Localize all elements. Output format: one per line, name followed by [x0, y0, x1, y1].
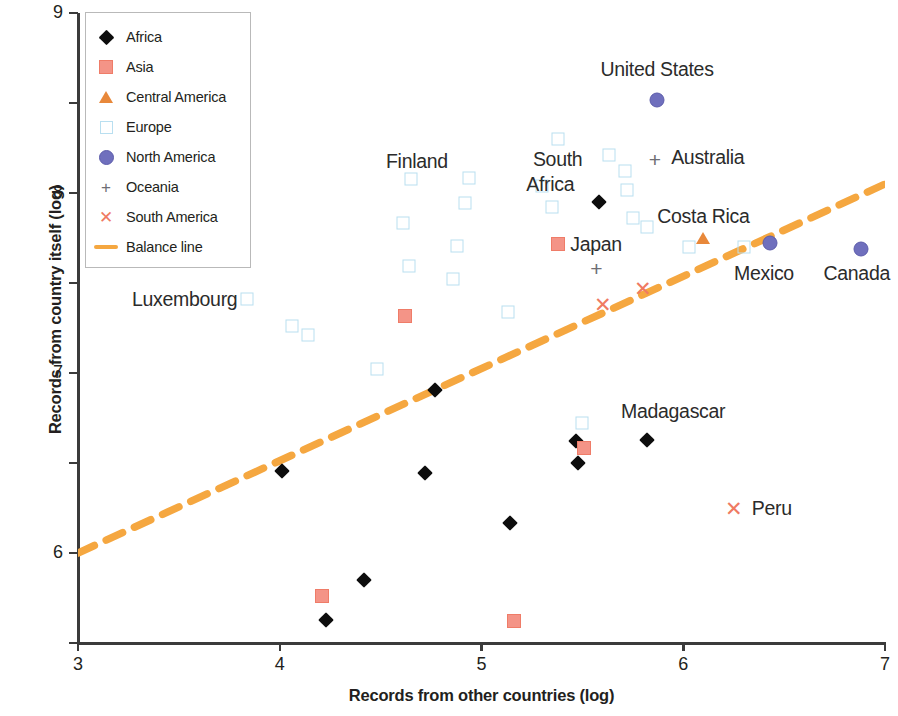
square-outline-marker-icon: [301, 329, 314, 342]
square-marker-icon: [315, 589, 329, 603]
square-outline-marker-icon: [618, 165, 631, 178]
y-tick-mark: 8: [69, 102, 78, 105]
point-annotation-label: Finland: [386, 149, 448, 172]
y-tick-mark: 4: [69, 462, 78, 465]
point-annotation-label: Luxembourg: [132, 288, 237, 311]
square-outline-marker-icon: [737, 241, 750, 254]
diamond-filled-black-icon: [86, 32, 126, 43]
square-marker-icon: [507, 614, 521, 628]
legend-label: Asia: [126, 59, 153, 75]
legend-item-oceania[interactable]: +Oceania: [86, 172, 250, 202]
square-outline-marker-icon: [459, 196, 472, 209]
y-tick-mark: 9: [69, 12, 78, 15]
triangle-orange-icon: [86, 91, 126, 103]
cross-marker-icon: ✕: [725, 498, 743, 519]
cross-marker-icon: ✕: [594, 293, 612, 314]
legend-marker: [99, 150, 114, 165]
diamond-marker-icon: [318, 612, 334, 628]
diamond-marker-icon: [357, 572, 373, 588]
legend-item-europe[interactable]: Europe: [86, 112, 250, 142]
x-tick-label: 5: [476, 654, 486, 675]
point-annotation-label: Canada: [823, 262, 890, 285]
x-tick-mark: [279, 642, 282, 651]
legend-label: Africa: [126, 29, 162, 45]
diamond-marker-icon: [591, 194, 607, 210]
plus-marker-icon: +: [649, 148, 661, 169]
square-outline-lightblue-icon: [86, 121, 126, 134]
circle-marker-icon: [650, 93, 665, 108]
diamond-marker-icon: [639, 432, 655, 448]
square-outline-marker-icon: [451, 240, 464, 253]
diamond-marker-icon: [274, 463, 290, 479]
square-outline-marker-icon: [402, 259, 415, 272]
square-marker-icon: [551, 237, 565, 251]
y-tick-label: 8: [53, 181, 63, 202]
square-outline-marker-icon: [640, 221, 653, 234]
legend-item-central-america[interactable]: Central America: [86, 82, 250, 112]
y-axis-line: [77, 13, 80, 644]
triangle-marker-icon: [696, 232, 710, 244]
square-outline-marker-icon: [404, 172, 417, 185]
legend-item-north-america[interactable]: North America: [86, 142, 250, 172]
square-marker-icon: [577, 441, 591, 455]
diamond-marker-icon: [417, 465, 433, 481]
square-outline-marker-icon: [396, 216, 409, 229]
legend-marker: [100, 121, 113, 134]
y-tick-mark: 7: [69, 192, 78, 195]
plus-gray-icon: +: [86, 179, 126, 196]
circle-marker-icon: [763, 235, 778, 250]
dashed-line-swatch-icon: [94, 245, 118, 250]
square-outline-marker-icon: [241, 293, 254, 306]
point-annotation-label: Australia: [671, 146, 744, 169]
point-annotation-label: United States: [600, 57, 713, 80]
square-outline-marker-icon: [501, 305, 514, 318]
square-outline-marker-icon: [285, 320, 298, 333]
legend-item-south-america[interactable]: ✕South America: [86, 202, 250, 232]
legend-label: Oceania: [126, 179, 179, 195]
circle-filled-purple-icon: [86, 150, 126, 165]
legend-label: South America: [126, 209, 218, 225]
diamond-marker-icon: [427, 382, 443, 398]
legend-item-africa[interactable]: Africa: [86, 22, 250, 52]
cross-marker-icon: ✕: [634, 277, 652, 298]
square-filled-salmon-icon: [86, 60, 126, 74]
x-tick-mark: [884, 642, 887, 651]
square-outline-marker-icon: [552, 133, 565, 146]
legend-label: Central America: [126, 89, 226, 105]
y-tick-label: 7: [53, 361, 63, 382]
y-tick-mark: 6: [69, 282, 78, 285]
point-annotation-label: Japan: [570, 233, 622, 256]
point-annotation-label: South: [533, 147, 582, 170]
y-tick-label: 9: [53, 1, 63, 22]
circle-marker-icon: [853, 241, 868, 256]
diamond-marker-icon: [571, 455, 587, 471]
square-outline-marker-icon: [370, 363, 383, 376]
point-annotation-label: Madagascar: [621, 399, 725, 422]
legend-item-asia[interactable]: Asia: [86, 52, 250, 82]
square-outline-marker-icon: [447, 272, 460, 285]
x-tick-label: 7: [880, 654, 890, 675]
point-annotation-label: Africa: [526, 173, 574, 196]
x-tick-label: 6: [678, 654, 688, 675]
legend-label: Europe: [126, 119, 172, 135]
legend-marker: [99, 91, 113, 103]
square-outline-marker-icon: [626, 212, 639, 225]
square-outline-marker-icon: [463, 171, 476, 184]
square-marker-icon: [398, 309, 412, 323]
legend-glyph: ✕: [99, 209, 113, 226]
cross-salmon-icon: ✕: [86, 209, 126, 226]
square-outline-marker-icon: [683, 241, 696, 254]
x-tick-label: 4: [275, 654, 285, 675]
y-tick-mark: 3: [69, 552, 78, 555]
y-tick-mark: 5: [69, 372, 78, 375]
dashed-line-orange-icon: [86, 245, 126, 250]
point-annotation-label: Peru: [752, 497, 792, 520]
square-outline-marker-icon: [602, 149, 615, 162]
square-outline-marker-icon: [620, 184, 633, 197]
point-annotation-label: Costa Rica: [657, 205, 749, 228]
y-tick-label: 6: [53, 541, 63, 562]
x-tick-mark: [77, 642, 80, 651]
legend-item-balance-line[interactable]: Balance line: [86, 232, 250, 262]
diamond-marker-icon: [502, 516, 518, 532]
x-tick-mark: [682, 642, 685, 651]
